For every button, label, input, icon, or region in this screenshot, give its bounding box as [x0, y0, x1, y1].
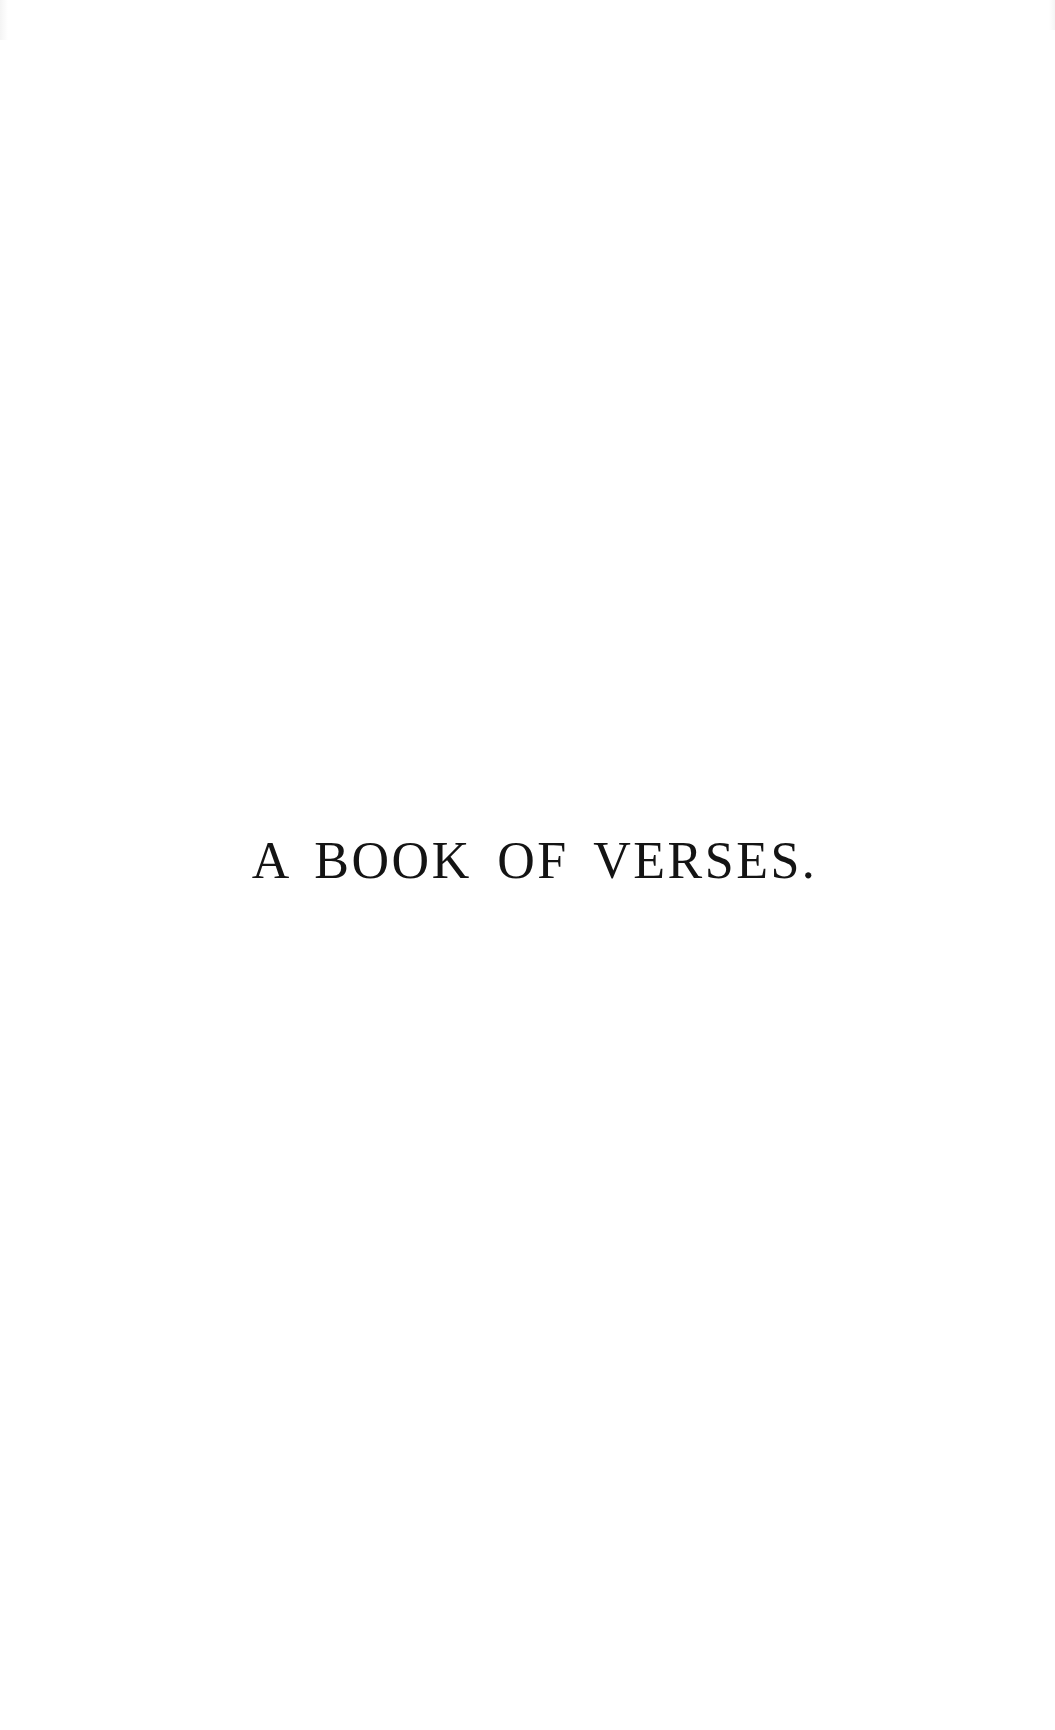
- page-edge-shadow-left: [0, 0, 8, 40]
- book-page: A BOOK OF VERSES.: [0, 0, 1055, 1730]
- half-title: A BOOK OF VERSES.: [0, 826, 1055, 896]
- page-edge-shadow-right: [1049, 0, 1055, 30]
